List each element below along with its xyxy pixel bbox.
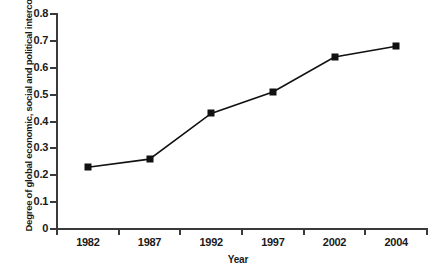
x-tick-mark: [303, 228, 305, 235]
x-tick-mark: [56, 228, 58, 235]
y-tick-mark: [50, 147, 57, 149]
x-tick-mark: [426, 228, 428, 235]
data-point-marker: [84, 164, 91, 171]
y-tick-mark: [50, 174, 57, 176]
data-point-marker: [146, 156, 153, 163]
y-tick-mark: [50, 94, 57, 96]
x-tick-label: 1997: [243, 236, 303, 248]
x-tick-label: 1992: [181, 236, 241, 248]
x-tick-mark: [118, 228, 120, 235]
x-tick-label: 1987: [120, 236, 180, 248]
series-line-svg: [0, 0, 440, 276]
x-tick-label: 1982: [58, 236, 118, 248]
data-point-marker: [269, 88, 276, 95]
x-tick-mark: [364, 228, 366, 235]
x-tick-label: 2002: [305, 236, 365, 248]
x-axis-title: Year: [188, 254, 288, 265]
x-tick-mark: [241, 228, 243, 235]
data-point-marker: [208, 110, 215, 117]
x-tick-mark: [179, 228, 181, 235]
y-axis-title: Degree of global economic, social and po…: [23, 4, 34, 232]
y-tick-mark: [50, 67, 57, 69]
y-tick-mark: [50, 40, 57, 42]
data-point-marker: [393, 43, 400, 50]
y-tick-mark: [50, 13, 57, 15]
y-tick-mark: [50, 121, 57, 123]
data-point-marker: [331, 54, 338, 61]
x-tick-label: 2004: [366, 236, 426, 248]
series-polyline: [88, 46, 396, 167]
line-chart: 00.10.20.30.40.50.60.70.8 19821987199219…: [0, 0, 440, 276]
y-tick-mark: [50, 201, 57, 203]
